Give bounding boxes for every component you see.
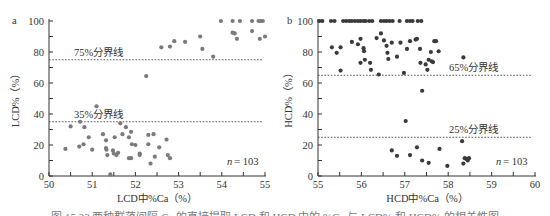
data-point [157,145,161,149]
data-point [338,69,342,73]
panel-a-points [63,19,267,177]
data-point [379,31,383,35]
data-point [437,147,441,151]
data-point [382,38,386,42]
data-point [153,155,157,159]
data-point [87,135,91,139]
panel-b-hcd: b 020406080100 555657585960 65%分界线25%分界线… [283,15,540,204]
data-point [398,41,402,45]
panel-a-lcd: a 020406080100 505152535455 75%分界线35%分界线… [10,15,270,204]
x-tick-label: 50 [44,179,55,190]
y-tick-label: 80 [303,47,314,58]
data-point [104,138,108,142]
data-point [250,29,254,33]
threshold-label: 35%分界线 [74,108,124,120]
panel-a-n-annotation: n= 103 [227,156,259,167]
data-point [124,125,128,129]
threshold-label: 25%分界线 [449,123,499,135]
panel-b-thresholds: 65%分界线25%分界线 [318,61,532,137]
data-point [183,40,187,44]
data-point [415,37,419,41]
panel-a-label: a [12,15,17,26]
panel-b-y-axis: 020406080100 [297,16,322,182]
panel-b-points [317,19,471,168]
x-tick-label: 55 [260,179,271,190]
data-point [130,142,134,146]
panel-a-y-axis: 020406080100 [28,16,53,182]
data-point [82,125,86,129]
data-point [116,151,120,155]
data-point [101,132,105,136]
data-point [168,156,172,160]
data-point [437,49,441,53]
panel-a-n-symbol: n [227,156,232,167]
data-point [362,49,366,53]
data-point [425,68,429,72]
data-point [63,147,67,151]
x-tick-label: 58 [443,179,454,190]
data-point [408,39,412,43]
data-point [418,47,422,51]
x-tick-label: 53 [173,179,184,190]
data-point [384,44,388,48]
data-point [151,132,155,136]
data-point [467,156,471,160]
data-point [168,44,172,48]
data-point [81,142,85,146]
data-point [335,51,339,55]
figure: a 020406080100 505152535455 75%分界线35%分界线… [0,0,550,216]
panel-b-label: b [287,15,292,26]
data-point [105,153,109,157]
data-point [395,55,399,59]
data-point [415,145,419,149]
panel-b-y-label: HCD%（%） [283,68,294,128]
data-point [104,148,108,152]
data-point [198,34,202,38]
x-tick-label: 54 [217,179,228,190]
panel-b-x-axis: 555657585960 [313,172,541,190]
x-tick-label: 56 [356,179,367,190]
data-point [377,72,381,76]
panel-b-x-label: HCD中%Ca（%） [386,192,467,204]
data-point [129,130,133,134]
data-point [235,37,239,41]
data-point [172,39,176,43]
data-point [385,51,389,55]
panel-a-x-axis: 505152535455 [44,172,271,190]
data-point [404,119,408,123]
data-point [78,120,82,124]
data-point [231,19,235,23]
y-tick-label: 20 [34,140,45,151]
data-point [405,47,409,51]
data-point [434,39,438,43]
data-point [77,144,81,148]
y-tick-label: 20 [303,140,314,151]
data-point [94,104,98,108]
data-point [250,19,254,23]
y-tick-label: 80 [34,47,45,58]
data-point [370,19,374,23]
data-point [69,124,73,128]
data-point [374,36,378,40]
data-point [427,161,431,165]
data-point [461,162,465,166]
threshold-label: 65%分界线 [449,61,499,73]
data-point [460,139,464,143]
y-tick-label: 60 [303,78,314,89]
data-point [386,57,390,61]
y-tick-label: 60 [34,78,45,89]
x-tick-label: 60 [530,179,541,190]
data-point [146,133,150,137]
data-point [395,154,399,158]
y-tick-label: 40 [34,109,45,120]
x-tick-label: 51 [87,179,98,190]
x-tick-label: 52 [130,179,141,190]
x-tick-label: 55 [313,179,324,190]
data-point [108,172,112,176]
x-tick-label: 57 [400,179,411,190]
data-point [200,47,204,51]
data-point [332,19,336,23]
data-point [133,143,137,147]
data-point [350,40,354,44]
data-point [358,61,362,65]
